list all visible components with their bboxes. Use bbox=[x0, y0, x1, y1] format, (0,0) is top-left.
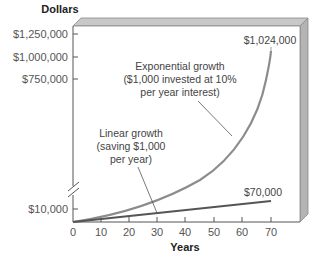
x-tick-label-30: 30 bbox=[151, 226, 163, 238]
growth-chart: Dollars $1,250,000 $1,000,000 $750,000 $… bbox=[0, 0, 324, 263]
y-tick-label-1250000: $1,250,000 bbox=[13, 28, 68, 40]
y-tick-label-10000: $10,000 bbox=[28, 203, 68, 215]
box-side-face bbox=[300, 18, 308, 222]
svg-text:($1,000 invested at 10%: ($1,000 invested at 10% bbox=[123, 73, 236, 85]
x-tick-label-50: 50 bbox=[208, 226, 220, 238]
svg-text:Exponential growth: Exponential growth bbox=[135, 60, 224, 72]
x-tick-label-20: 20 bbox=[123, 226, 135, 238]
x-tick-labels: 0 10 20 30 40 50 60 70 bbox=[70, 226, 277, 238]
exponential-end-label: $1,024,000 bbox=[244, 34, 297, 46]
box-top-face bbox=[73, 18, 308, 26]
x-axis-title: Years bbox=[170, 241, 199, 253]
x-tick-label-0: 0 bbox=[70, 226, 76, 238]
x-tick-label-70: 70 bbox=[265, 226, 277, 238]
linear-end-label: $70,000 bbox=[244, 186, 282, 198]
svg-text:(saving $1,000: (saving $1,000 bbox=[97, 140, 166, 152]
svg-text:Linear growth: Linear growth bbox=[99, 127, 163, 139]
x-tick-label-60: 60 bbox=[236, 226, 248, 238]
y-tick-label-1000000: $1,000,000 bbox=[13, 51, 68, 63]
svg-text:per year): per year) bbox=[110, 153, 152, 165]
svg-text:per year interest): per year interest) bbox=[140, 86, 219, 98]
x-tick-label-40: 40 bbox=[179, 226, 191, 238]
y-tick-label-750000: $750,000 bbox=[22, 73, 68, 85]
y-axis-title: Dollars bbox=[41, 3, 78, 15]
x-tick-label-10: 10 bbox=[95, 226, 107, 238]
